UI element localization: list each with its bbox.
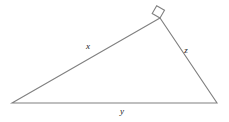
triangle-diagram: x z y — [0, 0, 229, 122]
side-label-x: x — [86, 42, 90, 51]
right-angle-marker-icon — [152, 6, 164, 18]
triangle-outline — [12, 18, 217, 103]
side-label-y: y — [120, 107, 124, 116]
triangle-drawing — [0, 0, 229, 122]
side-label-z: z — [184, 46, 188, 55]
